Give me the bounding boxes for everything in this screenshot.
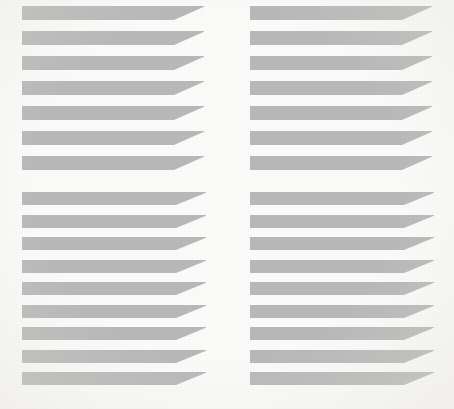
stripe xyxy=(250,106,432,120)
stripe xyxy=(22,192,206,205)
stripe xyxy=(22,156,204,170)
stripe xyxy=(22,6,204,20)
stripe xyxy=(22,106,204,120)
stripe xyxy=(250,282,434,295)
stripe xyxy=(22,282,206,295)
stripe xyxy=(22,215,206,228)
stripe xyxy=(22,372,206,385)
stripe xyxy=(250,372,434,385)
stripe xyxy=(250,260,434,273)
panel-top-right xyxy=(250,6,432,170)
stripe xyxy=(22,350,206,363)
stripe xyxy=(22,260,206,273)
stripe xyxy=(22,305,206,318)
stripe-illusion-figure xyxy=(0,0,454,409)
stripe xyxy=(250,156,432,170)
stripe xyxy=(250,131,432,145)
stripe xyxy=(250,6,432,20)
panel-top-left xyxy=(22,6,204,170)
stripe xyxy=(22,131,204,145)
stripe xyxy=(250,350,434,363)
stripe xyxy=(250,56,432,70)
stripe xyxy=(22,237,206,250)
panel-bottom-right xyxy=(250,192,434,385)
stripe xyxy=(22,56,204,70)
stripe xyxy=(250,305,434,318)
stripe xyxy=(22,327,206,340)
stripe xyxy=(250,237,434,250)
stripe xyxy=(250,215,434,228)
stripe xyxy=(22,31,204,45)
stripe xyxy=(22,81,204,95)
stripe xyxy=(250,81,432,95)
stripe xyxy=(250,31,432,45)
stripe xyxy=(250,327,434,340)
stripe xyxy=(250,192,434,205)
panel-bottom-left xyxy=(22,192,206,385)
